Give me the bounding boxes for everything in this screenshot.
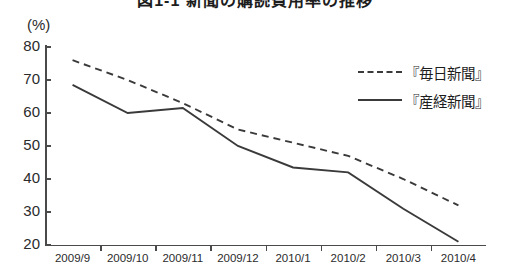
chart-series-area bbox=[0, 0, 510, 277]
legend-item: 『毎日新聞』 bbox=[358, 58, 489, 86]
legend-swatch-dashed bbox=[358, 66, 402, 78]
legend-item: 『産経新聞』 bbox=[358, 86, 489, 114]
legend-label: 『毎日新聞』 bbox=[405, 62, 489, 83]
chart-legend: 『毎日新聞』『産経新聞』 bbox=[358, 58, 489, 114]
legend-line-icon bbox=[358, 99, 402, 101]
chart-figure: 図1-1 新聞の購読費用率の推移 (%) 80706050403020 2009… bbox=[0, 0, 510, 277]
legend-label: 『産経新聞』 bbox=[405, 90, 489, 111]
legend-line-icon bbox=[358, 71, 402, 73]
legend-swatch-solid bbox=[358, 94, 402, 106]
